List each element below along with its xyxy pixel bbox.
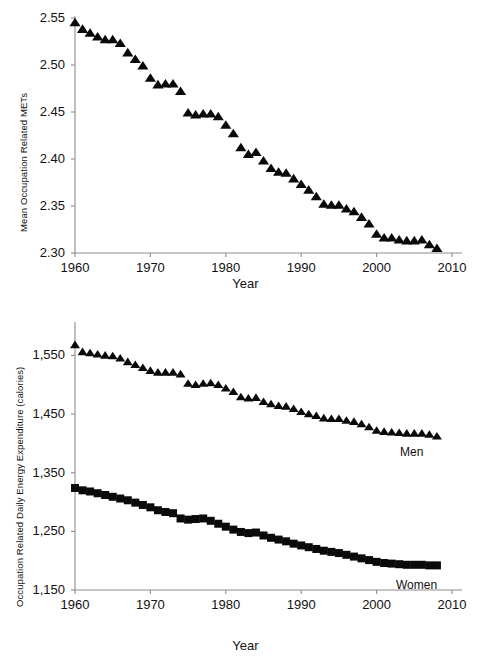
x-axis-label-top: Year (0, 276, 491, 291)
x-tick-label: 1970 (120, 597, 180, 612)
figure-container: Mean Occupation Related METs 2.302.352.4… (0, 0, 491, 664)
x-tick-label: 1970 (120, 260, 180, 275)
series-label-women: Women (396, 578, 437, 592)
y-tick-label: 1,550 (13, 347, 65, 362)
x-tick-label: 2000 (347, 260, 407, 275)
series-label-men: Men (400, 445, 423, 459)
x-axis-label-bottom: Year (0, 638, 491, 653)
x-tick-label: 2010 (422, 260, 482, 275)
y-tick-label: 2.30 (13, 245, 65, 260)
x-tick-label: 1990 (271, 260, 331, 275)
y-tick-label: 2.40 (13, 151, 65, 166)
y-tick-label: 1,350 (13, 465, 65, 480)
x-tick-label: 2010 (422, 597, 482, 612)
data-markers-women (71, 484, 441, 569)
data-markers-men (70, 341, 442, 440)
x-tick-label: 1960 (45, 597, 105, 612)
y-tick-label: 2.35 (13, 198, 65, 213)
chart-panel-bottom: Occupation Related Daily Energy Expendit… (0, 300, 491, 664)
plot-area-top (0, 0, 491, 300)
x-tick-label: 1980 (196, 597, 256, 612)
x-tick-label: 1980 (196, 260, 256, 275)
data-markers-top (69, 18, 442, 252)
y-tick-label: 1,450 (13, 406, 65, 421)
y-tick-label: 1,150 (13, 582, 65, 597)
y-tick-label: 2.55 (13, 10, 65, 25)
y-tick-label: 2.50 (13, 57, 65, 72)
x-tick-label: 2000 (347, 597, 407, 612)
x-tick-label: 1990 (271, 597, 331, 612)
y-tick-label: 2.45 (13, 104, 65, 119)
chart-panel-top: Mean Occupation Related METs 2.302.352.4… (0, 0, 491, 300)
x-tick-label: 1960 (45, 260, 105, 275)
y-tick-label: 1,250 (13, 523, 65, 538)
